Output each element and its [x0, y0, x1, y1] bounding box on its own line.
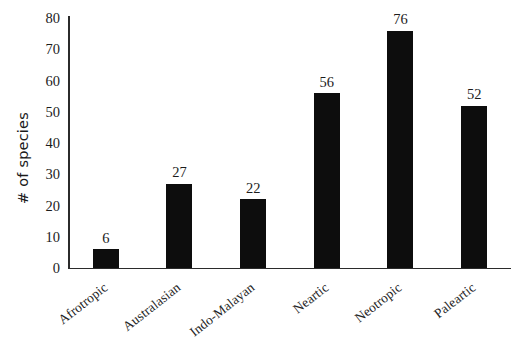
x-axis-category-label: Afrotropic: [55, 280, 111, 328]
y-axis-tick-label: 80: [26, 11, 60, 26]
y-axis-tick-label: 40: [26, 136, 60, 151]
bar: [461, 106, 487, 269]
bar-value-label: 52: [467, 87, 482, 102]
x-axis-label-slot: Indo-Malayan: [216, 272, 290, 356]
bar-group: 76: [364, 18, 438, 268]
plot-area: 62722567652: [69, 18, 511, 268]
y-axis-tick-labels: 01020304050607080: [24, 0, 60, 356]
y-axis-tick-label: 20: [26, 198, 60, 213]
x-axis-category-labels: AfrotropicAustralasianIndo-MalayanNearti…: [69, 272, 511, 356]
bar-value-label: 56: [320, 75, 335, 90]
bar: [314, 93, 340, 268]
y-axis-tick-label: 60: [26, 73, 60, 88]
y-axis-tick-label: 10: [26, 230, 60, 245]
bar-value-label: 76: [393, 12, 408, 27]
y-axis-tick-label: 50: [26, 105, 60, 120]
x-axis-label-slot: Paleartic: [437, 272, 511, 356]
bar-value-label: 27: [172, 165, 187, 180]
bar-group: 27: [143, 18, 217, 268]
bar-chart: # of species 01020304050607080 627225676…: [0, 0, 528, 356]
bar-value-label: 6: [102, 231, 109, 246]
y-axis-tick-label: 30: [26, 167, 60, 182]
bar-group: 22: [216, 18, 290, 268]
x-axis-category-label: Neartic: [290, 280, 332, 318]
bar: [166, 184, 192, 268]
bar: [387, 31, 413, 269]
bar-group: 6: [69, 18, 143, 268]
bar-group: 56: [290, 18, 364, 268]
bar: [93, 249, 119, 268]
bar-value-label: 22: [246, 181, 261, 196]
y-axis-tick-label: 70: [26, 42, 60, 57]
x-axis-category-label: Paleartic: [431, 280, 479, 322]
x-axis-label-slot: Neotropic: [364, 272, 438, 356]
bar-group: 52: [437, 18, 511, 268]
bar: [240, 199, 266, 268]
y-axis-tick-label: 0: [26, 261, 60, 276]
